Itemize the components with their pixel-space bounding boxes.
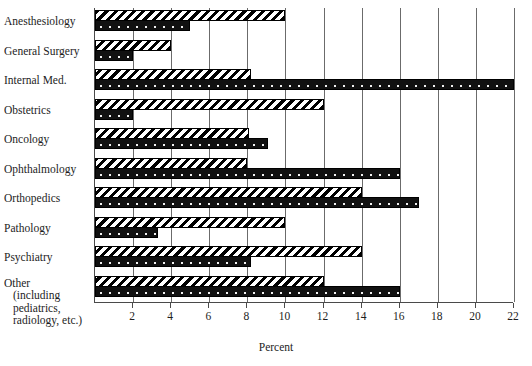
x-tick-6 (208, 303, 209, 308)
category-label-line: (including (4, 289, 90, 302)
x-tick-label-2: 2 (119, 310, 145, 322)
gridline-22 (514, 8, 515, 302)
x-tick-22 (513, 303, 514, 308)
category-label: General Surgery (4, 45, 90, 58)
x-tick-2 (132, 303, 133, 308)
category-label: Internal Med. (4, 74, 90, 87)
bar-row (95, 8, 513, 38)
x-tick-10 (284, 303, 285, 308)
category-label: Other(includingpediatrics,radiology, etc… (4, 277, 90, 327)
bar-row (95, 126, 513, 156)
category-label-line: radiology, etc.) (4, 314, 90, 327)
x-tick-label-22: 22 (500, 310, 526, 322)
bar-row (95, 215, 513, 245)
plot-area (94, 8, 513, 303)
bar-row (95, 185, 513, 215)
bar-dotted (95, 79, 514, 90)
x-tick-label-18: 18 (424, 310, 450, 322)
category-label: Psychiatry (4, 251, 90, 264)
x-axis-title: Percent (0, 341, 532, 353)
bar-row (95, 67, 513, 97)
bar-dotted (95, 168, 400, 179)
bar-dotted (95, 197, 419, 208)
x-tick-18 (437, 303, 438, 308)
bar-row (95, 274, 513, 304)
x-tick-14 (361, 303, 362, 308)
x-tick-label-12: 12 (310, 310, 336, 322)
category-label: Orthopedics (4, 192, 90, 205)
x-tick-label-4: 4 (157, 310, 183, 322)
x-tick-20 (475, 303, 476, 308)
bar-dotted (95, 20, 190, 31)
x-tick-label-16: 16 (386, 310, 412, 322)
bar-row (95, 38, 513, 68)
x-tick-8 (246, 303, 247, 308)
category-label-line: pediatrics, (4, 302, 90, 315)
x-tick-label-8: 8 (233, 310, 259, 322)
bar-dotted (95, 286, 400, 297)
bar-dotted (95, 256, 251, 267)
category-label: Oncology (4, 133, 90, 146)
bar-row (95, 97, 513, 127)
category-label: Anesthesiology (4, 15, 90, 28)
category-label: Ophthalmology (4, 163, 90, 176)
bar-dotted (95, 50, 133, 61)
bar-dotted (95, 109, 133, 120)
bar-row (95, 156, 513, 186)
category-label: Obstetrics (4, 104, 90, 117)
x-tick-label-10: 10 (271, 310, 297, 322)
x-tick-label-6: 6 (195, 310, 221, 322)
category-label: Pathology (4, 222, 90, 235)
x-tick-12 (323, 303, 324, 308)
horizontal-bar-chart: AnesthesiologyGeneral SurgeryInternal Me… (0, 0, 532, 366)
x-tick-16 (399, 303, 400, 308)
x-tick-label-20: 20 (462, 310, 488, 322)
bar-row (95, 244, 513, 274)
bar-dotted (95, 138, 268, 149)
x-tick-label-14: 14 (348, 310, 374, 322)
bar-dotted (95, 227, 158, 238)
x-tick-4 (170, 303, 171, 308)
